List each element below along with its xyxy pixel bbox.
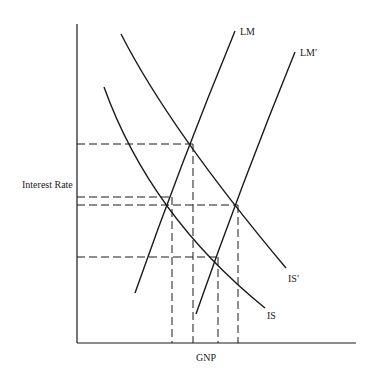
y-axis-label: Interest Rate: [22, 179, 73, 190]
is-prime-label: IS′: [288, 273, 299, 284]
is-label: IS: [267, 310, 276, 321]
dashed-guides: [77, 144, 238, 343]
is-prime-curve: [121, 34, 286, 268]
x-axis-label: GNP: [196, 352, 216, 363]
lm-label: LM: [240, 26, 255, 37]
lm-prime-label: LM′: [300, 47, 317, 58]
is-lm-diagram: LM LM′ IS IS′ Interest Rate GNP: [0, 0, 375, 376]
lm-curve: [135, 31, 235, 293]
